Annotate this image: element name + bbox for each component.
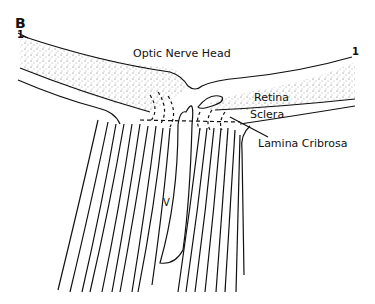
label-vessel: V [163, 198, 170, 208]
optic-nerve-diagram [0, 0, 375, 304]
label-lamina-cribrosa: Lamina Cribrosa [258, 138, 348, 149]
section-marker-left: 1 [17, 30, 24, 40]
panel-label: B [15, 16, 26, 30]
label-optic-nerve-head: Optic Nerve Head [133, 48, 231, 59]
label-sclera: Sclera [250, 109, 284, 120]
section-marker-right: 1 [352, 47, 359, 57]
label-retina: Retina [254, 92, 289, 103]
